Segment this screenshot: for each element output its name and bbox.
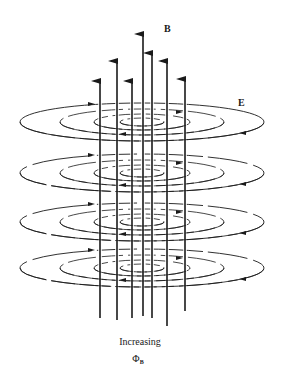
flux-phi: Φ	[132, 353, 139, 364]
faraday-induction-diagram: B E Increasing ΦB	[0, 0, 281, 373]
e-field-direction-icon	[239, 182, 246, 186]
b-field-label: B	[164, 23, 171, 34]
caption-flux-symbol: ΦB	[132, 353, 143, 365]
e-field-direction-icon	[119, 278, 126, 282]
e-field-direction-icon	[239, 277, 246, 281]
e-field-direction-icon	[88, 248, 95, 252]
flux-subscript: B	[140, 359, 144, 365]
magnetic-field-arrows	[100, 34, 185, 326]
e-field-direction-icon	[119, 183, 126, 187]
caption-increasing: Increasing	[119, 336, 161, 347]
e-field-direction-icon	[88, 202, 95, 206]
e-field-direction-icon	[88, 153, 95, 157]
e-field-direction-icon	[119, 132, 126, 136]
e-field-direction-icon	[239, 231, 246, 235]
e-field-direction-icon	[119, 232, 126, 236]
e-field-direction-icon	[88, 102, 95, 106]
e-field-direction-icon	[239, 131, 246, 135]
e-field-label: E	[238, 97, 245, 108]
